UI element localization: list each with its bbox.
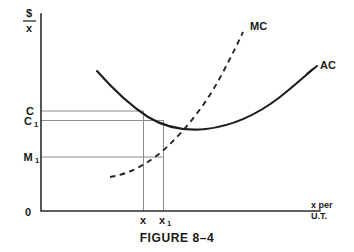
x-tick-label-x: x <box>140 214 147 226</box>
y-tick-label-m1-subscript: 1 <box>35 156 39 165</box>
x-tick-label-x1: x 1 <box>159 214 171 228</box>
x-tick-label-x1-subscript: 1 <box>167 219 171 228</box>
y-axis-label-numerator: $ <box>26 7 32 19</box>
ac-label-leader <box>307 66 317 74</box>
label-leaders-group <box>307 66 317 74</box>
x-tick-label-x1-base: x <box>159 214 166 226</box>
figure-caption: FIGURE 8–4 <box>0 231 354 245</box>
y-tick-label-m1-base: M <box>23 151 32 163</box>
y-axis-label: $ x <box>23 7 36 34</box>
axis-lines <box>41 14 320 211</box>
curve-label-ac: AC <box>320 59 336 71</box>
y-tick-label-m1: M 1 <box>23 151 39 165</box>
figure-container: $ x x per U.T. 0 C C 1 M 1 x x 1 MC AC <box>0 0 354 252</box>
origin-label: 0 <box>25 206 31 218</box>
reference-lines-group <box>41 111 164 211</box>
y-tick-label-c1: C 1 <box>24 115 38 129</box>
x-axis-label: x per U.T. <box>311 200 333 221</box>
x-axis-label-line2: U.T. <box>311 211 327 221</box>
axes-group <box>41 14 320 211</box>
y-tick-label-c1-base: C <box>24 115 32 127</box>
cost-curve-chart: $ x x per U.T. 0 C C 1 M 1 x x 1 MC AC <box>0 0 354 252</box>
x-axis-label-line1: x per <box>311 200 333 210</box>
y-axis-label-denominator: x <box>26 22 33 34</box>
y-tick-label-c1-subscript: 1 <box>34 120 38 129</box>
curve-label-mc: MC <box>250 20 267 32</box>
